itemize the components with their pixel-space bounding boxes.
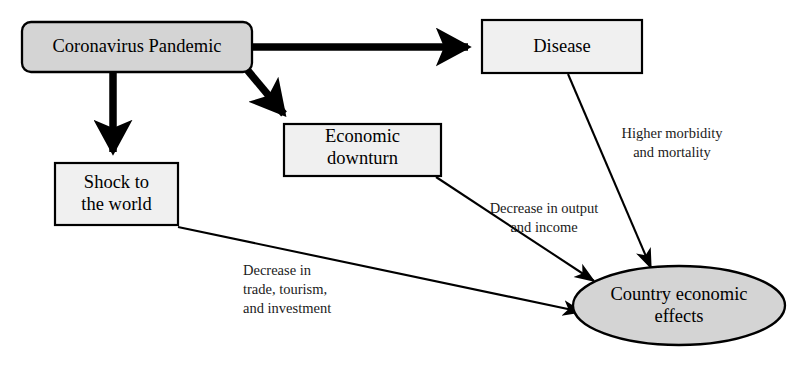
flow-diagram: Coronavirus Pandemic Disease Economic do… (0, 0, 804, 365)
edge-disease-to-effects (568, 74, 651, 268)
edge-label-decrease-output: Decrease in output and income (479, 199, 609, 237)
edge-label-decrease-trade: Decrease in trade, tourism, and investme… (243, 261, 403, 318)
edge-label-higher-morbidity: Higher morbidity and mortality (604, 124, 740, 162)
node-disease[interactable] (482, 20, 642, 73)
node-economic-downturn[interactable] (284, 124, 441, 176)
node-country-economic-effects[interactable] (573, 266, 785, 345)
node-shock-to-the-world[interactable] (55, 163, 178, 225)
edge-pandemic-to-downturn (244, 66, 284, 114)
node-coronavirus-pandemic[interactable] (22, 22, 252, 72)
